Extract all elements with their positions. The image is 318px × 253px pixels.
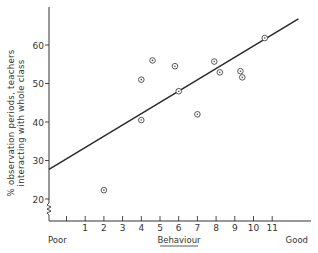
- scatter-chart: 12345678910112030405060 % observation pe…: [0, 0, 318, 253]
- data-point: [262, 35, 268, 41]
- x-tick-label: 5: [157, 223, 163, 233]
- x-tick-label: 6: [176, 223, 182, 233]
- data-point: [176, 88, 182, 94]
- x-tick-label: 3: [120, 223, 126, 233]
- regression-line: [49, 19, 298, 170]
- x-tick-label: 7: [195, 223, 201, 233]
- x-tick-label: 9: [232, 223, 238, 233]
- data-point: [101, 187, 107, 193]
- regression-line-path: [49, 19, 298, 170]
- y-tick-label: 40: [33, 118, 45, 128]
- y-tick-label: 30: [33, 156, 45, 166]
- data-point: [139, 117, 145, 123]
- data-point: [150, 58, 156, 64]
- data-point: [239, 75, 245, 81]
- x-tick-label: 8: [213, 223, 219, 233]
- x-tick-label: 1: [82, 223, 88, 233]
- data-point: [139, 77, 145, 83]
- x-axis-label: Behaviour: [157, 235, 201, 245]
- x-tick-label: 2: [101, 223, 107, 233]
- axis-break-icon: [47, 203, 51, 221]
- axis-labels: % observation periods, teachers interact…: [6, 49, 308, 246]
- x-axis-label-good: Good: [286, 235, 308, 245]
- y-tick-label: 20: [33, 195, 45, 205]
- axes: [47, 7, 311, 221]
- y-tick-label: 50: [33, 79, 45, 89]
- y-axis-label-line1: % observation periods, teachers: [6, 49, 16, 196]
- x-tick-label: 11: [266, 223, 277, 233]
- data-point: [238, 68, 244, 74]
- y-tick-label: 60: [33, 41, 45, 51]
- data-point: [211, 59, 217, 65]
- data-points: [101, 35, 267, 193]
- x-tick-label: 4: [138, 223, 144, 233]
- y-axis-label-line2: interacting with whole class: [16, 59, 26, 186]
- x-tick-label: 10: [248, 223, 260, 233]
- data-point: [217, 70, 223, 76]
- data-point: [172, 63, 178, 69]
- x-axis-label-poor: Poor: [48, 235, 67, 245]
- data-point: [195, 112, 201, 118]
